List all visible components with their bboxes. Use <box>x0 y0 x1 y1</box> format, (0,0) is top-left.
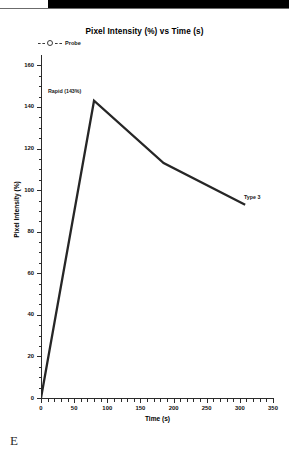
x-minor-tick <box>167 399 168 402</box>
x-minor-tick <box>61 399 62 402</box>
x-tick-250 <box>207 399 208 403</box>
x-minor-tick <box>246 399 247 402</box>
x-tick-label-150: 150 <box>128 405 152 411</box>
x-minor-tick <box>68 399 69 402</box>
x-tick-label-250: 250 <box>195 405 219 411</box>
legend-open-circle-icon <box>47 40 53 46</box>
x-minor-tick <box>200 399 201 402</box>
x-minor-tick <box>213 399 214 402</box>
y-tick-label-0: 0 <box>14 395 34 401</box>
x-minor-tick <box>147 399 148 402</box>
chart-title: Pixel Intensity (%) vs Time (s) <box>0 27 289 36</box>
y-tick-label-140: 140 <box>14 103 34 109</box>
y-tick-label-40: 40 <box>14 311 34 317</box>
x-minor-tick <box>121 399 122 402</box>
y-tick-label-20: 20 <box>14 353 34 359</box>
x-minor-tick <box>114 399 115 402</box>
x-tick-100 <box>107 399 108 403</box>
x-minor-tick <box>220 399 221 402</box>
legend-line-icon <box>38 43 45 44</box>
x-tick-label-0: 0 <box>29 405 53 411</box>
legend-line-icon <box>55 43 62 44</box>
x-minor-tick <box>87 399 88 402</box>
x-tick-label-300: 300 <box>228 405 252 411</box>
x-tick-label-350: 350 <box>261 405 285 411</box>
x-minor-tick <box>81 399 82 402</box>
x-minor-tick <box>193 399 194 402</box>
plot-area <box>41 55 273 398</box>
endpoint-annotation-label: Type 3 <box>244 194 260 200</box>
x-minor-tick <box>54 399 55 402</box>
x-minor-tick <box>266 399 267 402</box>
x-tick-150 <box>140 399 141 403</box>
x-minor-tick <box>127 399 128 402</box>
x-tick-200 <box>174 399 175 403</box>
x-minor-tick <box>260 399 261 402</box>
panel-letter: E <box>10 433 18 449</box>
x-axis-title: Time (s) <box>41 415 274 422</box>
x-tick-50 <box>74 399 75 403</box>
x-minor-tick <box>253 399 254 402</box>
x-minor-tick <box>101 399 102 402</box>
x-minor-tick <box>48 399 49 402</box>
x-tick-0 <box>41 399 42 403</box>
x-minor-tick <box>94 399 95 402</box>
x-minor-tick <box>134 399 135 402</box>
x-minor-tick <box>233 399 234 402</box>
x-tick-label-50: 50 <box>62 405 86 411</box>
y-axis-title: Pixel Intensity (%) <box>13 140 20 280</box>
x-minor-tick <box>180 399 181 402</box>
chart-legend: Probe <box>38 40 81 46</box>
x-tick-label-100: 100 <box>95 405 119 411</box>
x-minor-tick <box>187 399 188 402</box>
x-tick-350 <box>273 399 274 403</box>
y-tick-label-160: 160 <box>14 62 34 68</box>
figure-panel: Pixel Intensity (%) vs Time (s) Probe 02… <box>0 9 289 451</box>
legend-label-probe: Probe <box>65 40 81 46</box>
peak-annotation-label: Rapid (143%) <box>48 88 81 94</box>
x-tick-label-200: 200 <box>162 405 186 411</box>
x-minor-tick <box>160 399 161 402</box>
x-minor-tick <box>154 399 155 402</box>
data-series-probe <box>41 55 273 398</box>
x-tick-300 <box>240 399 241 403</box>
x-minor-tick <box>227 399 228 402</box>
